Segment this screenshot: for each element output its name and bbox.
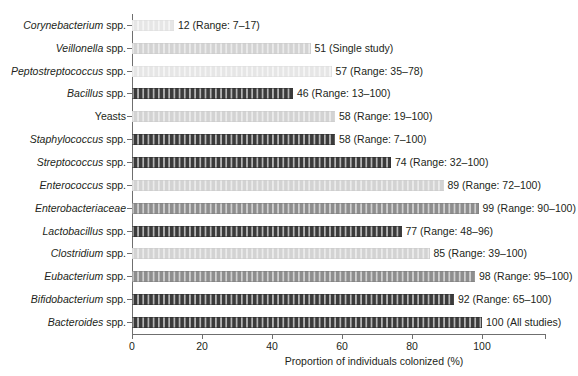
bar-value-label: 99 (Range: 90–100) — [483, 203, 576, 214]
bar-value-label: 89 (Range: 72–100) — [448, 180, 541, 191]
x-axis-end-tick — [545, 334, 546, 339]
category-suffix: spp. — [103, 179, 126, 191]
bar — [132, 226, 402, 237]
bar — [132, 111, 335, 122]
category-suffix: spp. — [103, 42, 126, 54]
bar-value-label: 77 (Range: 48–96) — [406, 226, 494, 237]
category-genus: Bacteroides — [48, 316, 103, 328]
chart-row: Bifidobacterium spp.92 (Range: 65–100) — [0, 288, 578, 311]
x-axis-tick — [132, 334, 133, 339]
x-axis-tick-label: 80 — [406, 340, 418, 352]
bar-rows: Corynebacterium spp.12 (Range: 7–17)Veil… — [0, 14, 578, 334]
chart-row: Staphylococcus spp.58 (Range: 7–100) — [0, 128, 578, 151]
category-genus: Corynebacterium — [23, 19, 103, 31]
bar-value-label: 51 (Single study) — [315, 43, 394, 54]
category-label: Enterococcus spp. — [0, 180, 126, 191]
category-suffix: spp. — [103, 65, 126, 77]
chart-row: Veillonella spp.51 (Single study) — [0, 37, 578, 60]
bar-with-label: 100 (All studies) — [132, 317, 561, 328]
bar-value-label: 46 (Range: 13–100) — [297, 88, 390, 99]
bar — [132, 317, 482, 328]
chart-row: Lactobacillus spp.77 (Range: 48–96) — [0, 220, 578, 243]
bar-value-label: 92 (Range: 65–100) — [458, 294, 551, 305]
bar-with-label: 58 (Range: 7–100) — [132, 134, 427, 145]
bar-with-label: 98 (Range: 95–100) — [132, 271, 572, 282]
category-label: Bifidobacterium spp. — [0, 294, 126, 305]
bar — [132, 88, 293, 99]
category-suffix: spp. — [103, 225, 126, 237]
bar-value-label: 74 (Range: 32–100) — [395, 157, 488, 168]
bar-value-label: 85 (Range: 39–100) — [434, 248, 527, 259]
bar — [132, 20, 174, 31]
bar-value-label: 58 (Range: 19–100) — [339, 111, 432, 122]
category-suffix: spp. — [103, 87, 126, 99]
x-axis-tick — [202, 334, 203, 339]
chart-row: Eubacterium spp.98 (Range: 95–100) — [0, 265, 578, 288]
category-genus: Eubacterium — [44, 270, 103, 282]
category-suffix: spp. — [103, 247, 126, 259]
chart-row: Bacteroides spp.100 (All studies) — [0, 311, 578, 334]
bar-value-label: 98 (Range: 95–100) — [479, 271, 572, 282]
chart-row: Enterobacteriaceae99 (Range: 90–100) — [0, 197, 578, 220]
bar-value-label: 100 (All studies) — [486, 317, 561, 328]
category-label: Clostridium spp. — [0, 248, 126, 259]
category-label: Yeasts — [0, 111, 126, 122]
bar-with-label: 92 (Range: 65–100) — [132, 294, 551, 305]
category-suffix: spp. — [103, 156, 126, 168]
bar — [132, 180, 444, 191]
x-axis-tick — [482, 334, 483, 339]
chart-row: Streptococcus spp.74 (Range: 32–100) — [0, 151, 578, 174]
bar — [132, 248, 430, 259]
bar-with-label: 46 (Range: 13–100) — [132, 88, 390, 99]
chart-row: Enterococcus spp.89 (Range: 72–100) — [0, 174, 578, 197]
category-label: Streptococcus spp. — [0, 157, 126, 168]
category-label: Lactobacillus spp. — [0, 226, 126, 237]
chart-row: Clostridium spp.85 (Range: 39–100) — [0, 242, 578, 265]
bar — [132, 134, 335, 145]
category-label: Enterobacteriaceae — [0, 203, 126, 214]
category-genus: Enterococcus — [40, 179, 104, 191]
bar — [132, 203, 479, 214]
category-label: Bacillus spp. — [0, 88, 126, 99]
bar-with-label: 99 (Range: 90–100) — [132, 203, 576, 214]
x-axis-tick-label: 100 — [473, 340, 491, 352]
x-axis-ticks: 020406080100 — [0, 334, 578, 356]
bar-with-label: 74 (Range: 32–100) — [132, 157, 488, 168]
category-label: Corynebacterium spp. — [0, 20, 126, 31]
x-axis-tick-label: 40 — [266, 340, 278, 352]
x-axis-title-text: Proportion of individuals colonized (%) — [285, 355, 464, 367]
bar-with-label: 58 (Range: 19–100) — [132, 111, 432, 122]
bar-with-label: 57 (Range: 35–78) — [132, 66, 423, 77]
bar-value-label: 12 (Range: 7–17) — [178, 20, 260, 31]
category-genus: Bacillus — [67, 87, 103, 99]
bar-value-label: 57 (Range: 35–78) — [336, 66, 424, 77]
bar-with-label: 89 (Range: 72–100) — [132, 180, 541, 191]
x-axis-tick — [342, 334, 343, 339]
category-genus: Bifidobacterium — [31, 293, 103, 305]
bar — [132, 43, 311, 54]
category-suffix: spp. — [103, 133, 126, 145]
category-genus: Yeasts — [95, 110, 126, 122]
category-suffix: spp. — [103, 316, 126, 328]
category-genus: Streptococcus — [37, 156, 104, 168]
bar-with-label: 85 (Range: 39–100) — [132, 248, 527, 259]
x-axis-tick — [412, 334, 413, 339]
bar — [132, 66, 332, 77]
x-axis-tick-label: 0 — [129, 340, 135, 352]
bar-with-label: 77 (Range: 48–96) — [132, 226, 493, 237]
bar-value-label: 58 (Range: 7–100) — [339, 134, 427, 145]
category-suffix: spp. — [103, 19, 126, 31]
bar — [132, 271, 475, 282]
chart-row: Yeasts58 (Range: 19–100) — [0, 105, 578, 128]
category-suffix: spp. — [103, 270, 126, 282]
category-suffix: spp. — [103, 293, 126, 305]
category-genus: Clostridium — [51, 247, 104, 259]
category-genus: Enterobacteriaceae — [35, 202, 126, 214]
bar-with-label: 51 (Single study) — [132, 43, 393, 54]
category-genus: Veillonella — [56, 42, 103, 54]
bar-chart-figure: Corynebacterium spp.12 (Range: 7–17)Veil… — [0, 0, 578, 376]
category-label: Eubacterium spp. — [0, 271, 126, 282]
x-axis-title: Proportion of individuals colonized (%) — [0, 355, 578, 367]
category-label: Bacteroides spp. — [0, 317, 126, 328]
category-label: Veillonella spp. — [0, 43, 126, 54]
